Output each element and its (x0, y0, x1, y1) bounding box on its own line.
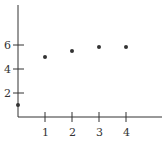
x-tick-label: 1 (42, 126, 49, 139)
y-ticks: 6 4 2 (4, 39, 24, 100)
data-point (16, 103, 20, 107)
data-points (16, 45, 128, 107)
data-point (43, 55, 47, 59)
y-tick-label: 2 (4, 87, 11, 100)
data-point (70, 49, 74, 53)
data-point (124, 45, 128, 49)
x-tick-label: 4 (123, 126, 130, 139)
x-tick-label: 2 (69, 126, 76, 139)
x-ticks: 1 2 3 4 (42, 112, 130, 139)
y-tick-label: 6 (4, 39, 11, 52)
x-tick-label: 3 (96, 126, 103, 139)
scatter-chart: 6 4 2 1 2 3 4 (0, 0, 164, 144)
y-tick-label: 4 (4, 63, 11, 76)
data-point (97, 45, 101, 49)
